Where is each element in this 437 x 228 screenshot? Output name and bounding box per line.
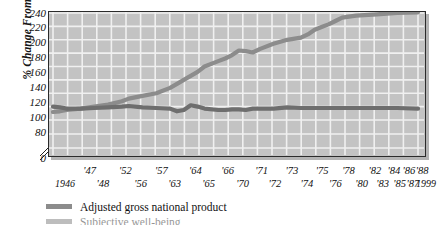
y-tick-140: 140 <box>6 82 46 92</box>
y-tick-200: 200 <box>6 37 46 47</box>
x-tick-lower-8: '76 <box>329 178 342 189</box>
x-tick-upper-4: '66 <box>221 165 234 176</box>
x-tick-upper-8: '78 <box>342 165 355 176</box>
x-tick-lower-9: '80 <box>355 178 368 189</box>
x-tick-upper-2: '57 <box>155 165 168 176</box>
legend-item-wellbeing: Subjective well-being <box>46 218 436 225</box>
y-tick-160: 160 <box>6 67 46 77</box>
x-tick-lower-0: 1946 <box>55 178 75 189</box>
x-tick-upper-12: '88 <box>416 165 429 176</box>
legend-swatch-wellbeing <box>46 219 72 224</box>
x-tick-upper-0: '47 <box>83 165 96 176</box>
y-tick-120: 120 <box>6 97 46 107</box>
x-tick-lower-5: '70 <box>236 178 249 189</box>
legend-label-gnp: Adjusted gross national product <box>80 201 227 213</box>
x-tick-upper-1: '52 <box>119 165 132 176</box>
x-tick-lower-11: '85 <box>393 178 406 189</box>
x-axis-upper-labels: '47'52'57'64'66'71'73'75'78'82'84'86'88 <box>0 165 437 177</box>
x-tick-upper-7: '75 <box>316 165 329 176</box>
x-tick-upper-6: '73 <box>285 165 298 176</box>
x-tick-lower-6: '72 <box>268 178 281 189</box>
x-tick-lower-2: '56 <box>134 178 147 189</box>
x-tick-upper-11: '86 <box>403 165 416 176</box>
chart-figure: % Change From 1946 240220200180160140120… <box>0 0 437 228</box>
x-tick-upper-9: '82 <box>369 165 382 176</box>
x-tick-upper-3: '64 <box>189 165 202 176</box>
legend-item-gnp: Adjusted gross national product <box>46 200 436 213</box>
x-tick-lower-3: '63 <box>168 178 181 189</box>
legend-label-wellbeing: Subjective well-being <box>80 218 181 225</box>
y-tick-80: 80 <box>6 127 46 137</box>
x-tick-lower-13: 1999 <box>416 178 436 189</box>
x-tick-lower-10: '83 <box>376 178 389 189</box>
gridlines <box>49 12 424 155</box>
x-tick-lower-7: '74 <box>301 178 314 189</box>
y-tick-240: 240 <box>6 8 46 18</box>
y-tick-100: 100 <box>6 112 46 122</box>
x-axis-lower-labels: 1946'48'56'63'65'70'72'74'76'80'83'85'87… <box>0 178 437 190</box>
x-tick-lower-1: '48 <box>96 178 109 189</box>
y-tick-180: 180 <box>6 52 46 62</box>
x-tick-upper-5: '71 <box>255 165 268 176</box>
x-tick-upper-10: '84 <box>387 165 400 176</box>
x-tick-lower-4: '65 <box>202 178 215 189</box>
legend-swatch-gnp <box>46 204 72 209</box>
legend: Adjusted gross national product Subjecti… <box>46 200 436 228</box>
series-line-0 <box>53 12 418 112</box>
data-series <box>53 12 418 112</box>
plot-svg <box>49 12 424 155</box>
y-tick-220: 220 <box>6 22 46 32</box>
plot-area <box>48 11 426 157</box>
